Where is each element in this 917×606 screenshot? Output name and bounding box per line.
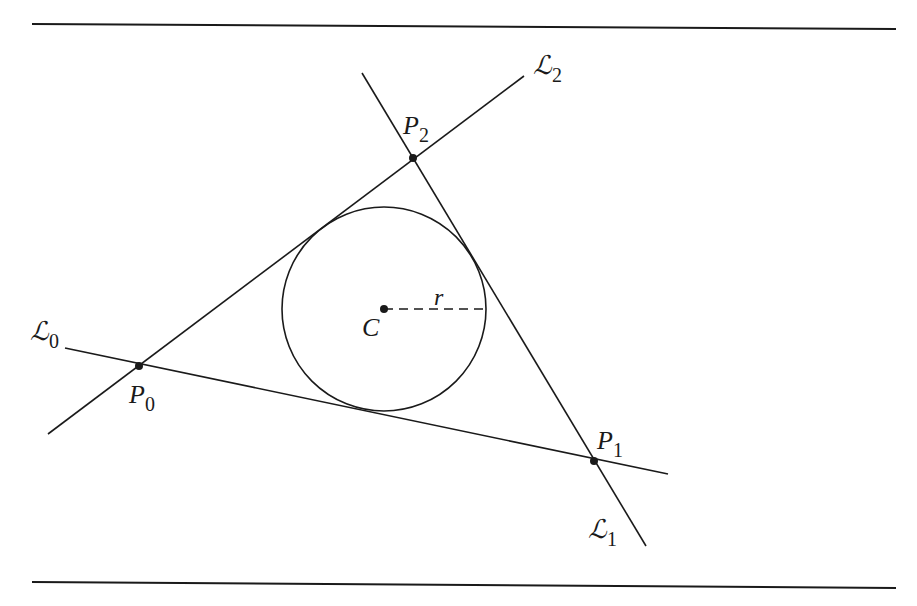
label-l1: ℒ1 [588,514,617,550]
label-l0: ℒ0 [30,316,59,352]
label-l2: ℒ2 [533,50,562,86]
point-p2 [409,154,417,162]
label-radius-r: r [434,284,444,310]
label-center-c: C [362,313,380,342]
center-point [380,305,388,313]
label-p1: P1 [596,426,623,461]
point-p1 [590,457,598,465]
bottom-rule [32,582,896,588]
line-l0 [65,348,668,474]
top-rule [32,24,896,29]
incircle-diagram: ℒ0 ℒ1 ℒ2 P0 P1 P2 C r [0,0,917,606]
label-p2: P2 [402,111,429,146]
line-l2 [48,76,524,434]
point-p0 [135,362,143,370]
label-p0: P0 [128,380,155,415]
